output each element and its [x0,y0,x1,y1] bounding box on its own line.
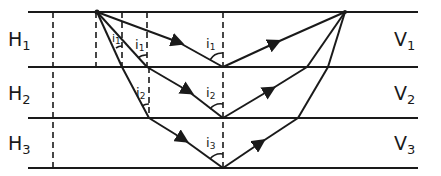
arc-i3 [210,154,223,159]
angle-label-ray3-i1: i1 [112,33,121,46]
angle-label-i3: i3 [206,136,215,151]
velocity-label-v2: V2 [394,84,415,106]
ray2-l2-up [223,90,270,118]
rays [97,12,345,168]
arc-i1-ray2 [138,55,147,58]
ray3-l2-up [298,67,328,118]
thickness-label-h2: H2 [8,84,31,106]
source-point [95,10,100,15]
ray3-l1-up [328,12,345,67]
ray1-up [223,43,275,67]
arc-i2-ray3 [142,104,149,106]
angle-label-ray2-i1: i1 [135,38,144,53]
thickness-label-h1: H1 [8,30,31,52]
angle-label-ray3-i2: i2 [136,86,145,101]
thickness-label-h3: H3 [8,134,31,156]
angle-label-i2: i2 [206,86,215,101]
velocity-label-v1: V1 [394,30,415,52]
ray3-l3-down [149,118,183,139]
arc-i1 [210,53,223,60]
receiver-point [343,10,347,14]
ray3-l3-up [223,143,260,168]
angle-label-i1: i1 [206,37,215,52]
arc-i1-ray3 [116,46,122,48]
ray2-l2-down [147,67,188,91]
velocity-label-v3: V3 [394,134,415,156]
seismic-ray-diagram [0,0,441,176]
